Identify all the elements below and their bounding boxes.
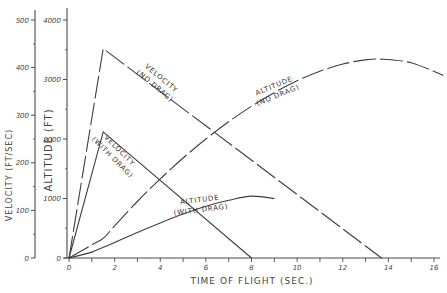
altitude-tick-label: 0 — [57, 255, 62, 263]
x-tick-label: 8 — [249, 264, 254, 272]
label-altitude-no-drag: ALTITUDE(NO DRAG) — [252, 74, 301, 108]
velocity-tick-label: 0 — [25, 255, 30, 263]
rocket-flight-chart: 0100200300400500010002000300040000246810… — [0, 0, 447, 293]
x-tick-label: 6 — [204, 264, 209, 272]
altitude-tick-label: 4000 — [43, 17, 61, 25]
curve-altitude-with-drag — [69, 196, 274, 258]
x-tick-label: 12 — [338, 264, 347, 272]
velocity-tick-label: 300 — [16, 112, 30, 120]
label-velocity-with-drag: VELOCITY(WITH DRAG) — [90, 128, 142, 180]
label-velocity-no-drag: VELOCITY(NO DRAG) — [135, 61, 182, 104]
x-tick-label: 0 — [67, 264, 72, 272]
x-tick-label: 4 — [158, 264, 162, 272]
velocity-tick-label: 400 — [16, 64, 30, 72]
label-altitude-with-drag: ALTITUDE(WITH DRAG) — [172, 193, 229, 218]
x-tick-label: 16 — [430, 264, 439, 272]
axes: 0100200300400500010002000300040000246810… — [16, 8, 440, 272]
velocity-tick-label: 100 — [16, 207, 30, 215]
velocity-axis-title: VELOCITY (FT/SEC) — [5, 129, 14, 221]
velocity-tick-label: 500 — [16, 17, 30, 25]
x-axis-title: TIME OF FLIGHT (SEC.) — [189, 276, 313, 286]
curve-velocity-with-drag — [69, 132, 252, 258]
altitude-tick-label: 1000 — [43, 195, 61, 203]
x-tick-label: 2 — [112, 264, 117, 272]
x-tick-label: 14 — [384, 264, 393, 272]
altitude-axis-title: ALTITUDE (FT) — [43, 108, 54, 191]
x-tick-label: 10 — [293, 264, 302, 272]
curve-labels: VELOCITY(NO DRAG)ALTITUDE(NO DRAG)VELOCI… — [90, 61, 301, 218]
altitude-tick-label: 3000 — [43, 76, 61, 84]
curve-velocity-no-drag — [69, 49, 382, 258]
velocity-tick-label: 200 — [16, 159, 30, 167]
